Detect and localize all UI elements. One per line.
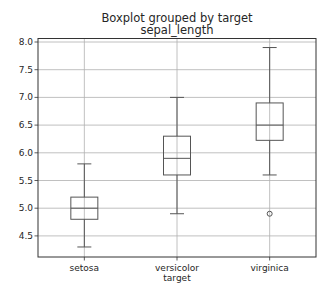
boxplot-chart: Boxplot grouped by target sepal_length 4…	[0, 0, 333, 301]
x-tick-label: setosa	[70, 263, 99, 273]
y-tick-label: 7.5	[19, 65, 33, 75]
chart-subtitle: sepal_length	[140, 23, 213, 37]
y-tick-label: 6.5	[19, 120, 33, 130]
x-axis-label: target	[163, 273, 191, 283]
gridlines	[38, 39, 316, 258]
y-tick-label: 6.0	[19, 148, 34, 158]
y-axis: 4.55.05.56.06.57.07.58.0	[19, 37, 38, 241]
y-tick-label: 7.0	[19, 92, 34, 102]
y-tick-label: 8.0	[19, 37, 34, 47]
y-tick-label: 5.0	[19, 203, 34, 213]
x-tick-label: versicolor	[155, 263, 199, 273]
y-tick-label: 5.5	[19, 176, 33, 186]
x-tick-label: virginica	[251, 263, 289, 273]
x-axis: setosaversicolorvirginica	[70, 257, 289, 273]
y-tick-label: 4.5	[19, 231, 33, 241]
